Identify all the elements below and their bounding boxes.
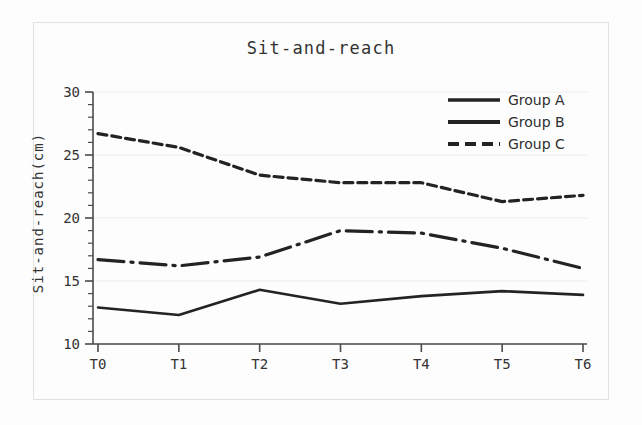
- legend-label: Group B: [508, 114, 565, 130]
- y-tick-label: 20: [63, 210, 80, 226]
- x-tick-label: T5: [494, 356, 511, 372]
- legend-label: Group A: [508, 92, 565, 108]
- x-axis: T0T1T2T3T4T5T6: [90, 344, 592, 372]
- chart-figure: Sit-and-reach Sit-and-reach(cm) 10152025…: [0, 0, 642, 425]
- x-tick-label: T3: [332, 356, 349, 372]
- x-tick-label: T4: [413, 356, 430, 372]
- y-tick-label: 10: [63, 336, 80, 352]
- x-tick-label: T2: [251, 356, 268, 372]
- x-tick-label: T1: [170, 356, 187, 372]
- y-axis: 1015202530: [63, 84, 93, 352]
- series-line: [98, 231, 583, 269]
- plot-area: 1015202530 T0T1T2T3T4T5T6 Group AGroup B…: [0, 0, 642, 425]
- y-tick-label: 30: [63, 84, 80, 100]
- chart-legend: Group AGroup BGroup C: [448, 92, 565, 152]
- x-tick-label: T0: [90, 356, 107, 372]
- series-line: [98, 290, 583, 315]
- legend-label: Group C: [508, 136, 565, 152]
- y-tick-label: 25: [63, 147, 80, 163]
- data-series-group: [98, 134, 583, 315]
- y-tick-label: 15: [63, 273, 80, 289]
- x-tick-label: T6: [575, 356, 592, 372]
